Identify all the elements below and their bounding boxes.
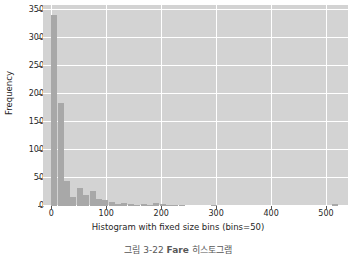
- histogram-bar: [102, 200, 108, 206]
- x-tick-mark: [161, 206, 162, 210]
- y-axis-label: Frequency: [4, 63, 14, 123]
- histogram-bar: [83, 195, 89, 206]
- x-tick-mark: [51, 206, 52, 210]
- x-tick-label: 300: [196, 210, 236, 218]
- histogram-bar: [64, 181, 70, 206]
- x-tick-mark: [271, 206, 272, 210]
- histogram-bar: [77, 188, 83, 207]
- gridline-vertical: [216, 5, 217, 206]
- gridline-horizontal: [43, 37, 348, 38]
- gridline-horizontal: [43, 177, 348, 178]
- histogram-bar: [211, 205, 217, 206]
- x-tick-mark: [216, 206, 217, 210]
- x-tick-label: 200: [141, 210, 181, 218]
- y-tick-mark: [38, 150, 42, 151]
- histogram-bar: [141, 204, 147, 206]
- gridline-horizontal: [43, 149, 348, 150]
- gridline-vertical: [161, 5, 162, 206]
- caption-bold: Fare: [167, 245, 189, 255]
- histogram-bar: [128, 204, 134, 206]
- histogram-bar: [166, 205, 172, 206]
- histogram-bar: [134, 205, 140, 206]
- histogram-bar: [90, 191, 96, 206]
- histogram-bar: [109, 202, 115, 206]
- histogram-bar: [179, 205, 185, 206]
- plot-area: [43, 5, 348, 206]
- histogram-bar: [70, 197, 76, 207]
- histogram-bar: [153, 203, 159, 206]
- y-tick-mark: [38, 38, 42, 39]
- histogram-bar: [332, 204, 338, 206]
- histogram-bar: [160, 204, 166, 206]
- y-tick-mark: [38, 66, 42, 67]
- gridline-vertical: [106, 5, 107, 206]
- histogram-bar: [58, 103, 64, 206]
- x-axis-label: Histogram with fixed size bins (bins=50): [0, 222, 356, 232]
- gridline-horizontal: [43, 65, 348, 66]
- y-tick-mark: [38, 206, 42, 207]
- gridline-horizontal: [43, 93, 348, 94]
- x-tick-label: 0: [31, 210, 71, 218]
- histogram-bar: [147, 205, 153, 206]
- y-tick-mark: [38, 178, 42, 179]
- histogram-bar: [115, 204, 121, 206]
- gridline-vertical: [271, 5, 272, 206]
- histogram-bar: [172, 205, 178, 206]
- x-tick-label: 500: [306, 210, 346, 218]
- x-tick-label: 100: [86, 210, 126, 218]
- gridline-vertical: [326, 5, 327, 206]
- x-tick-mark: [106, 206, 107, 210]
- figure-caption: 그림 3-22 Fare 히스토그램: [0, 243, 356, 256]
- x-tick-label: 400: [251, 210, 291, 218]
- y-tick-mark: [38, 94, 42, 95]
- x-tick-mark: [326, 206, 327, 210]
- gridline-horizontal: [43, 9, 348, 10]
- histogram-bar: [51, 15, 57, 206]
- histogram-bar: [96, 199, 102, 206]
- histogram-bar: [121, 203, 127, 206]
- caption-prefix: 그림 3-22: [124, 245, 166, 255]
- figure-container: Frequency 050100150200250300350 01002003…: [0, 0, 356, 257]
- gridline-horizontal: [43, 121, 348, 122]
- caption-suffix: 히스토그램: [189, 245, 232, 255]
- y-tick-mark: [38, 10, 42, 11]
- y-tick-mark: [38, 122, 42, 123]
